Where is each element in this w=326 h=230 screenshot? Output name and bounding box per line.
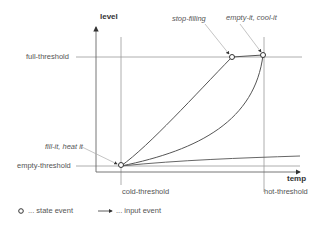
state-event-start (119, 163, 124, 168)
legend-state-icon (19, 209, 24, 214)
full-threshold-label: full-threshold (26, 53, 69, 61)
x-axis-label: temp (287, 175, 306, 183)
stop-event-label: stop-filling (172, 15, 206, 23)
hot-threshold-label: hot-threshold (264, 188, 308, 196)
stop-pointer (205, 24, 229, 54)
emptying-cooling-curve (121, 55, 263, 166)
legend-state-label: ... state event (28, 207, 73, 215)
empty-threshold-label: empty-threshold (17, 162, 71, 170)
cold-threshold-label: cold-threshold (122, 188, 169, 196)
state-event-stop (230, 55, 235, 60)
y-axis-label: level (100, 13, 118, 21)
filling-heating-curve (121, 57, 232, 166)
fill-pointer (82, 147, 117, 164)
state-event-empty (261, 53, 266, 58)
fill-event-label: fill-it, heat it (45, 143, 83, 151)
empty-event-label: empty-it, cool-it (226, 14, 277, 22)
legend-input-label: ... input event (116, 207, 161, 215)
bottom-curve (121, 156, 300, 166)
empty-pointer (240, 24, 261, 52)
